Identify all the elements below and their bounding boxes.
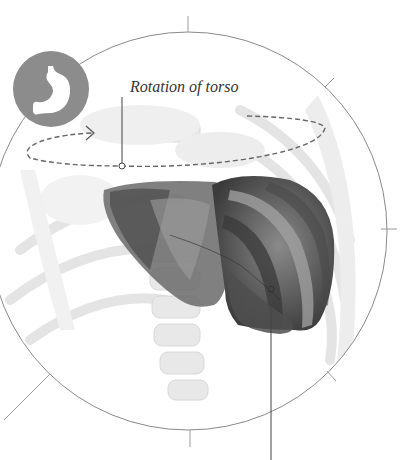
diagram-canvas (0, 0, 400, 460)
anatomy-diagram: Rotation of torso (0, 0, 400, 460)
rotation-label: Rotation of torso (130, 78, 238, 96)
stomach-icon (13, 51, 89, 127)
